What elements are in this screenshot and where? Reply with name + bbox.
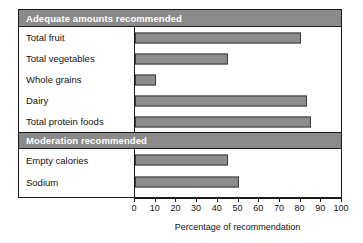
category-label: Total protein foods: [26, 111, 104, 132]
x-axis-tick-label: 80: [295, 203, 305, 213]
x-axis-tick: [155, 198, 156, 202]
x-axis: 0102030405060708090100: [134, 198, 341, 199]
bar-whole-grains: [135, 74, 156, 85]
x-axis-tick-label: 20: [170, 203, 180, 213]
rows-group-moderation: Empty calories Sodium: [19, 149, 341, 197]
x-axis-tick: [279, 198, 280, 202]
x-axis-tick: [320, 198, 321, 202]
category-label: Total fruit: [26, 27, 65, 48]
section-header-moderation: Moderation recommended: [19, 132, 341, 149]
bar-empty-calories: [135, 155, 228, 166]
bar-sodium: [135, 177, 239, 188]
chart-plot-frame: Adequate amounts recommended Total fruit…: [18, 9, 342, 198]
x-axis-tick: [300, 198, 301, 202]
x-axis-tick: [217, 198, 218, 202]
category-label: Dairy: [26, 90, 48, 111]
bar-dairy: [135, 95, 307, 106]
bar-track: [135, 111, 341, 132]
x-axis-tick: [258, 198, 259, 202]
x-axis-tick-label: 70: [274, 203, 284, 213]
x-axis-tick-label: 60: [253, 203, 263, 213]
x-axis-tick-label: 100: [333, 203, 348, 213]
category-label: Total vegetables: [26, 48, 95, 69]
x-axis-tick: [238, 198, 239, 202]
bar-chart-figure: Adequate amounts recommended Total fruit…: [0, 0, 363, 243]
x-axis-tick: [175, 198, 176, 202]
rows-group-adequate: Total fruit Total vegetables Whole grain…: [19, 27, 341, 132]
chart-row: Whole grains: [19, 69, 341, 90]
chart-row: Total protein foods: [19, 111, 341, 132]
bar-track: [135, 69, 341, 90]
bar-track: [135, 90, 341, 111]
chart-row: Sodium: [19, 171, 341, 193]
x-axis-tick-label: 50: [232, 203, 242, 213]
chart-row: Dairy: [19, 90, 341, 111]
category-label: Sodium: [26, 171, 58, 193]
x-axis-tick-label: 90: [315, 203, 325, 213]
chart-row: Total fruit: [19, 27, 341, 48]
bar-total-fruit: [135, 32, 301, 43]
x-axis-tick-label: 0: [131, 203, 136, 213]
bar-track: [135, 171, 341, 193]
bar-track: [135, 27, 341, 48]
chart-row: Total vegetables: [19, 48, 341, 69]
x-axis-tick-label: 40: [212, 203, 222, 213]
section-header-adequate: Adequate amounts recommended: [19, 10, 341, 27]
bar-track: [135, 48, 341, 69]
x-axis-tick: [196, 198, 197, 202]
category-label: Whole grains: [26, 69, 81, 90]
section-header-label: Moderation recommended: [19, 135, 147, 146]
bar-total-vegetables: [135, 53, 228, 64]
category-label: Empty calories: [26, 149, 88, 171]
bar-total-protein-foods: [135, 116, 311, 127]
x-axis-tick: [134, 198, 135, 202]
chart-row: Empty calories: [19, 149, 341, 171]
x-axis-title: Percentage of recommendation: [134, 222, 341, 232]
section-header-label: Adequate amounts recommended: [19, 13, 182, 24]
x-axis-tick: [341, 198, 342, 202]
bar-track: [135, 149, 341, 171]
x-axis-tick-label: 10: [150, 203, 160, 213]
x-axis-tick-label: 30: [191, 203, 201, 213]
